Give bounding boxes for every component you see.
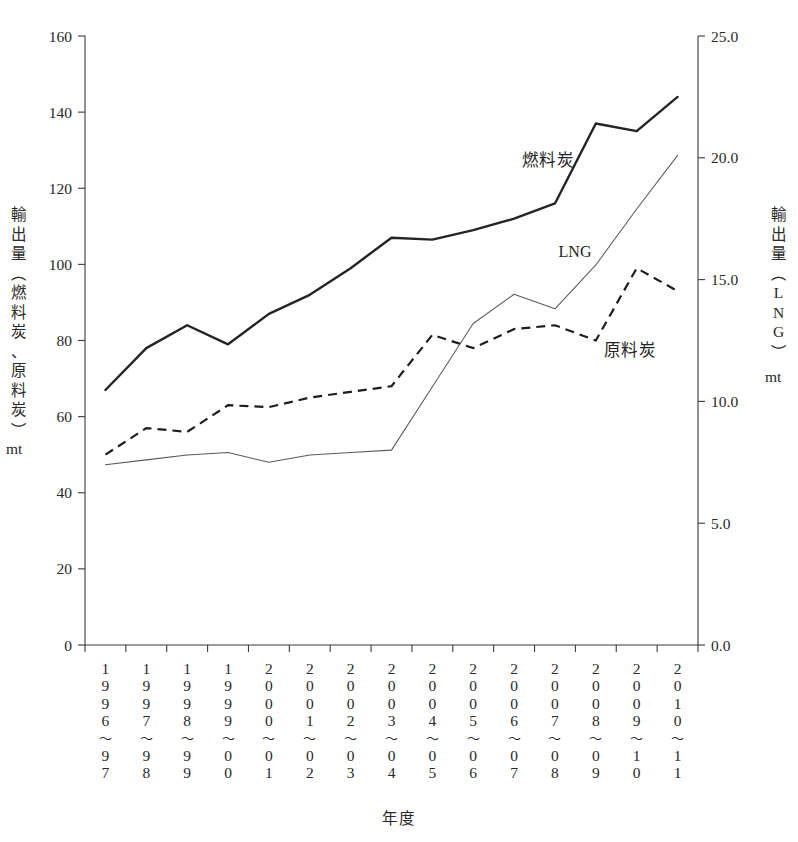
right-tick-label: 0.0 xyxy=(711,637,731,654)
axis-title-char: 料 xyxy=(8,381,29,401)
axis-title-char: （ xyxy=(769,263,789,284)
axis-title-char: ） xyxy=(769,341,789,362)
x-category-label: 1997～98 xyxy=(133,660,159,782)
x-category-label: 2003～04 xyxy=(379,660,405,782)
axis-title-char: 輸 xyxy=(768,205,789,225)
annotation-thermal-coal: 燃料炭 xyxy=(522,151,575,170)
axis-title-char: N xyxy=(768,303,789,323)
right-tick-label: 5.0 xyxy=(711,515,731,532)
left-axis-unit: mt xyxy=(6,440,22,458)
left-axis-title: 輸出量（燃料炭、原料炭） xyxy=(8,205,29,439)
left-tick-label: 100 xyxy=(49,256,73,273)
axis-title-char: 出 xyxy=(8,225,29,245)
x-axis-ticks xyxy=(85,645,698,652)
right-tick-label: 25.0 xyxy=(711,28,738,45)
x-category-label: 2009～10 xyxy=(624,660,650,782)
x-category-label: 2004～05 xyxy=(419,660,445,782)
x-category-label: 2010～11 xyxy=(665,660,691,782)
x-category-label: 1998～99 xyxy=(174,660,200,782)
right-axis-ticks: 0.05.010.015.020.025.0 xyxy=(698,28,738,654)
axis-title-char: G xyxy=(768,322,789,342)
annotation-coking-coal: 原料炭 xyxy=(604,341,657,360)
series-line-lng xyxy=(105,155,677,464)
x-category-label: 2008～09 xyxy=(583,660,609,782)
x-category-label: 1996～97 xyxy=(92,660,118,782)
axis-title-char: 燃 xyxy=(8,283,29,303)
left-tick-label: 0 xyxy=(64,637,72,654)
x-category-label: 2006～07 xyxy=(501,660,527,782)
axis-title-char: 輸 xyxy=(8,205,29,225)
x-axis-title: 年度 xyxy=(0,806,798,828)
series-line-coking-coal xyxy=(105,268,677,455)
right-axis-title: 輸出量（LNG） xyxy=(768,205,789,361)
chart-container: 輸出量（燃料炭、原料炭） mt 輸出量（LNG） mt 020406080100… xyxy=(0,0,798,842)
left-tick-label: 160 xyxy=(49,28,73,45)
left-tick-label: 80 xyxy=(57,332,73,349)
x-category-label: 2002～03 xyxy=(338,660,364,782)
left-tick-label: 140 xyxy=(49,104,73,121)
axis-title-char: 炭 xyxy=(8,400,29,420)
left-axis-ticks: 020406080100120140160 xyxy=(49,28,85,654)
left-tick-label: 20 xyxy=(57,560,73,577)
series-annotations: 燃料炭LNG原料炭 xyxy=(522,151,657,360)
right-tick-label: 15.0 xyxy=(711,271,738,288)
series-line-thermal-coal xyxy=(105,97,677,390)
axis-title-char: （ xyxy=(9,263,29,284)
axis-title-char: 原 xyxy=(8,361,29,381)
axis-title-char: 炭 xyxy=(8,322,29,342)
x-category-label: 2005～06 xyxy=(460,660,486,782)
right-axis-unit: mt xyxy=(765,368,781,386)
right-tick-label: 20.0 xyxy=(711,149,738,166)
x-category-label: 2001～02 xyxy=(297,660,323,782)
axis-title-char: ） xyxy=(9,419,29,440)
left-tick-label: 40 xyxy=(57,484,73,501)
axis-title-char: 料 xyxy=(8,303,29,323)
axis-title-char: 出 xyxy=(768,225,789,245)
x-category-label: 1999～00 xyxy=(215,660,241,782)
right-tick-label: 10.0 xyxy=(711,393,738,410)
left-tick-label: 120 xyxy=(49,180,73,197)
axis-title-char: 量 xyxy=(8,244,29,264)
annotation-lng: LNG xyxy=(559,243,592,260)
axis-title-char: L xyxy=(768,283,789,303)
axis-title-char: 量 xyxy=(768,244,789,264)
x-category-label: 2007～08 xyxy=(542,660,568,782)
axis-title-char: 、 xyxy=(8,342,29,362)
left-tick-label: 60 xyxy=(57,408,73,425)
x-category-label: 2000～01 xyxy=(256,660,282,782)
series-group xyxy=(105,97,677,465)
